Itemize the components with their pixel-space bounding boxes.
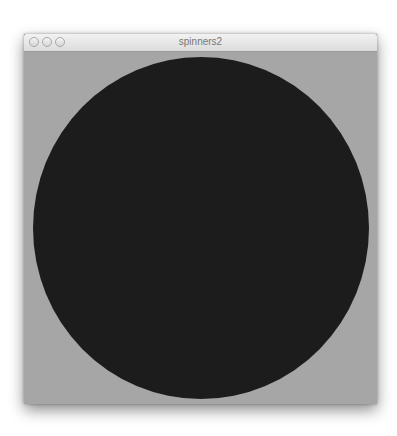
sketch-canvas[interactable] (24, 52, 377, 404)
spinner-circle (33, 57, 369, 399)
app-window: spinners2 (24, 34, 377, 404)
window-title: spinners2 (24, 36, 377, 47)
title-bar[interactable]: spinners2 (24, 34, 377, 52)
